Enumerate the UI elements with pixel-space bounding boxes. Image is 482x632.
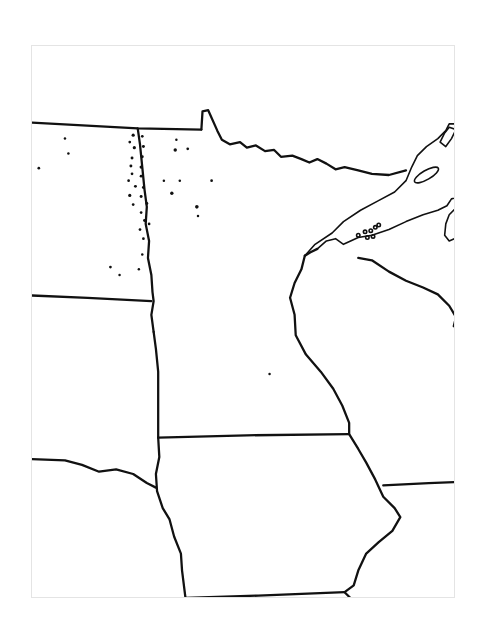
border-iowa-missouri — [185, 592, 344, 598]
lake-superior-south-shore — [317, 197, 455, 254]
isle-royale — [412, 164, 440, 186]
border-south-dakota-minnesota — [154, 332, 159, 438]
border-north-south-dakota — [32, 295, 151, 301]
border-minnesota-iowa — [158, 434, 349, 437]
lake-superior-shoreline — [305, 122, 455, 256]
border-iowa-west — [156, 438, 186, 598]
border-mississippi-river — [290, 256, 400, 598]
border-north-dakota-canada — [32, 123, 201, 130]
apostle-islands — [357, 223, 381, 239]
outline-map — [32, 46, 455, 598]
border-wisconsin-illinois — [383, 481, 455, 486]
border-south-dakota-nebraska — [32, 459, 156, 487]
map-frame — [31, 45, 455, 598]
border-wisconsin-michigan — [358, 258, 455, 330]
border-minnesota-canada — [201, 110, 406, 175]
keweenaw-peninsula — [440, 127, 455, 146]
